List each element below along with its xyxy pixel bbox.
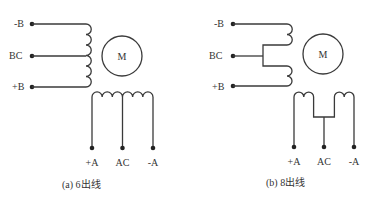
terminal-dot-minus-a bbox=[352, 145, 357, 150]
terminal-label-bc: BC bbox=[9, 50, 23, 61]
caption-eight-wire: (b) 8出线 bbox=[266, 176, 305, 189]
terminal-label-plus-a: +A bbox=[86, 157, 100, 168]
terminal-label-plus-b: +B bbox=[212, 81, 225, 92]
terminal-label-minus-a: -A bbox=[148, 157, 159, 168]
wire-bc-junction bbox=[263, 45, 287, 66]
terminal-dot-plus-a bbox=[90, 146, 95, 151]
motor-label: M bbox=[118, 51, 127, 62]
caption-six-wire: (a) 6出线 bbox=[62, 178, 101, 191]
terminal-label-bc: BC bbox=[209, 50, 223, 61]
panel-eight-wire: -B BC +B M +A AC -A (b bbox=[209, 18, 360, 189]
coil-b-icon bbox=[86, 24, 91, 87]
terminal-dot-ac bbox=[322, 145, 327, 150]
terminal-dot-ac bbox=[120, 146, 125, 151]
terminal-label-minus-b: -B bbox=[14, 18, 24, 29]
coil-b1-icon bbox=[287, 24, 292, 45]
stepper-wiring-diagram: -B BC +B M +A AC -A (a) 6出线 -B BC +B bbox=[0, 0, 372, 202]
coil-a-icon bbox=[92, 92, 153, 97]
coil-a2-icon bbox=[334, 92, 354, 97]
terminal-label-minus-a: -A bbox=[349, 156, 360, 167]
coil-a1-icon bbox=[294, 92, 314, 97]
panel-six-wire: -B BC +B M +A AC -A (a) 6出线 bbox=[9, 18, 159, 191]
terminal-dot-minus-a bbox=[151, 146, 156, 151]
terminal-label-ac: AC bbox=[317, 156, 331, 167]
wire-ac-junction bbox=[314, 97, 335, 117]
motor-label: M bbox=[319, 49, 328, 60]
terminal-label-plus-b: +B bbox=[12, 81, 25, 92]
coil-b2-icon bbox=[287, 66, 292, 86]
terminal-label-ac: AC bbox=[116, 157, 130, 168]
terminal-label-minus-b: -B bbox=[214, 18, 224, 29]
terminal-label-plus-a: +A bbox=[288, 156, 302, 167]
terminal-dot-plus-a bbox=[292, 145, 297, 150]
